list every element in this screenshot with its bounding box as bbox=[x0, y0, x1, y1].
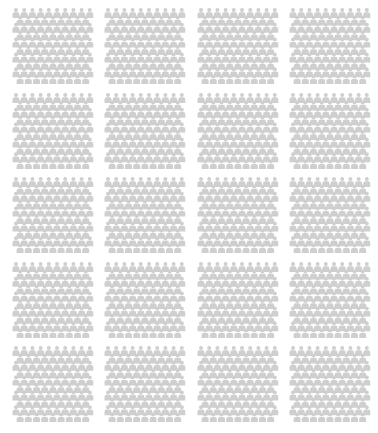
person-icon-group bbox=[289, 177, 373, 253]
person-icon-group bbox=[197, 262, 281, 338]
person-pictogram-block bbox=[12, 8, 96, 84]
person-icon-group bbox=[12, 93, 96, 169]
person-pictogram-block bbox=[289, 177, 373, 253]
person-pictogram-block bbox=[104, 8, 188, 84]
person-icon-group bbox=[12, 8, 96, 84]
person-pictogram-block bbox=[104, 177, 188, 253]
person-pictogram-block bbox=[289, 93, 373, 169]
person-icon-group bbox=[12, 177, 96, 253]
person-icon-group bbox=[197, 346, 281, 422]
person-icon-group bbox=[289, 8, 373, 84]
person-pictogram-block bbox=[197, 346, 281, 422]
person-pictogram-block bbox=[104, 93, 188, 169]
person-pictogram-block bbox=[12, 346, 96, 422]
person-icon-group bbox=[104, 262, 188, 338]
person-icon-group bbox=[197, 8, 281, 84]
person-icon-group bbox=[289, 346, 373, 422]
person-icon-group bbox=[12, 262, 96, 338]
person-pictogram-block bbox=[289, 262, 373, 338]
person-pictogram-block bbox=[104, 346, 188, 422]
person-pictogram-block bbox=[12, 177, 96, 253]
person-pictogram-block bbox=[289, 346, 373, 422]
person-icon-group bbox=[104, 346, 188, 422]
person-pictogram-block bbox=[12, 262, 96, 338]
pictogram-grid bbox=[0, 0, 378, 433]
person-icon-group bbox=[289, 93, 373, 169]
person-pictogram-block bbox=[197, 262, 281, 338]
person-icon-group bbox=[197, 177, 281, 253]
person-icon-group bbox=[289, 262, 373, 338]
person-icon-group bbox=[197, 93, 281, 169]
person-pictogram-block bbox=[12, 93, 96, 169]
person-pictogram-block bbox=[289, 8, 373, 84]
person-icon-group bbox=[104, 8, 188, 84]
person-icon-group bbox=[104, 93, 188, 169]
person-pictogram-block bbox=[197, 8, 281, 84]
person-pictogram-block bbox=[197, 177, 281, 253]
person-pictogram-block bbox=[104, 262, 188, 338]
person-icon-group bbox=[12, 346, 96, 422]
person-icon-group bbox=[104, 177, 188, 253]
person-pictogram-block bbox=[197, 93, 281, 169]
